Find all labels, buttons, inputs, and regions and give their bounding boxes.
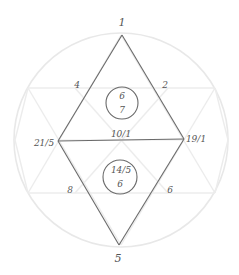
upper-circle-top-number: 6 xyxy=(119,91,125,101)
vertex-top-label: 1 xyxy=(119,16,126,29)
upper-circle-bottom-number: 7 xyxy=(119,105,125,115)
edge-upper-left-label: 4 xyxy=(73,80,80,90)
edge-upper-right xyxy=(122,35,184,139)
edge-middle-label: 10/1 xyxy=(111,129,131,139)
vertex-bottom-label: 5 xyxy=(115,252,122,265)
edge-lower-left-label: 8 xyxy=(67,185,73,195)
edge-upper-right-label: 2 xyxy=(161,80,168,90)
edge-lower-right-label: 6 xyxy=(167,185,173,195)
lower-circle-top-number: 14/5 xyxy=(111,165,131,175)
vertex-right-label: 19/1 xyxy=(186,134,206,144)
vertex-left-label: 21/5 xyxy=(33,138,54,148)
hexagram-diagram: 1 21/5 19/1 5 4 2 10/1 8 6 6 7 14/5 6 xyxy=(0,0,239,275)
diagram-canvas: 1 21/5 19/1 5 4 2 10/1 8 6 6 7 14/5 6 xyxy=(0,0,239,275)
lower-circle-bottom-number: 6 xyxy=(117,179,123,189)
